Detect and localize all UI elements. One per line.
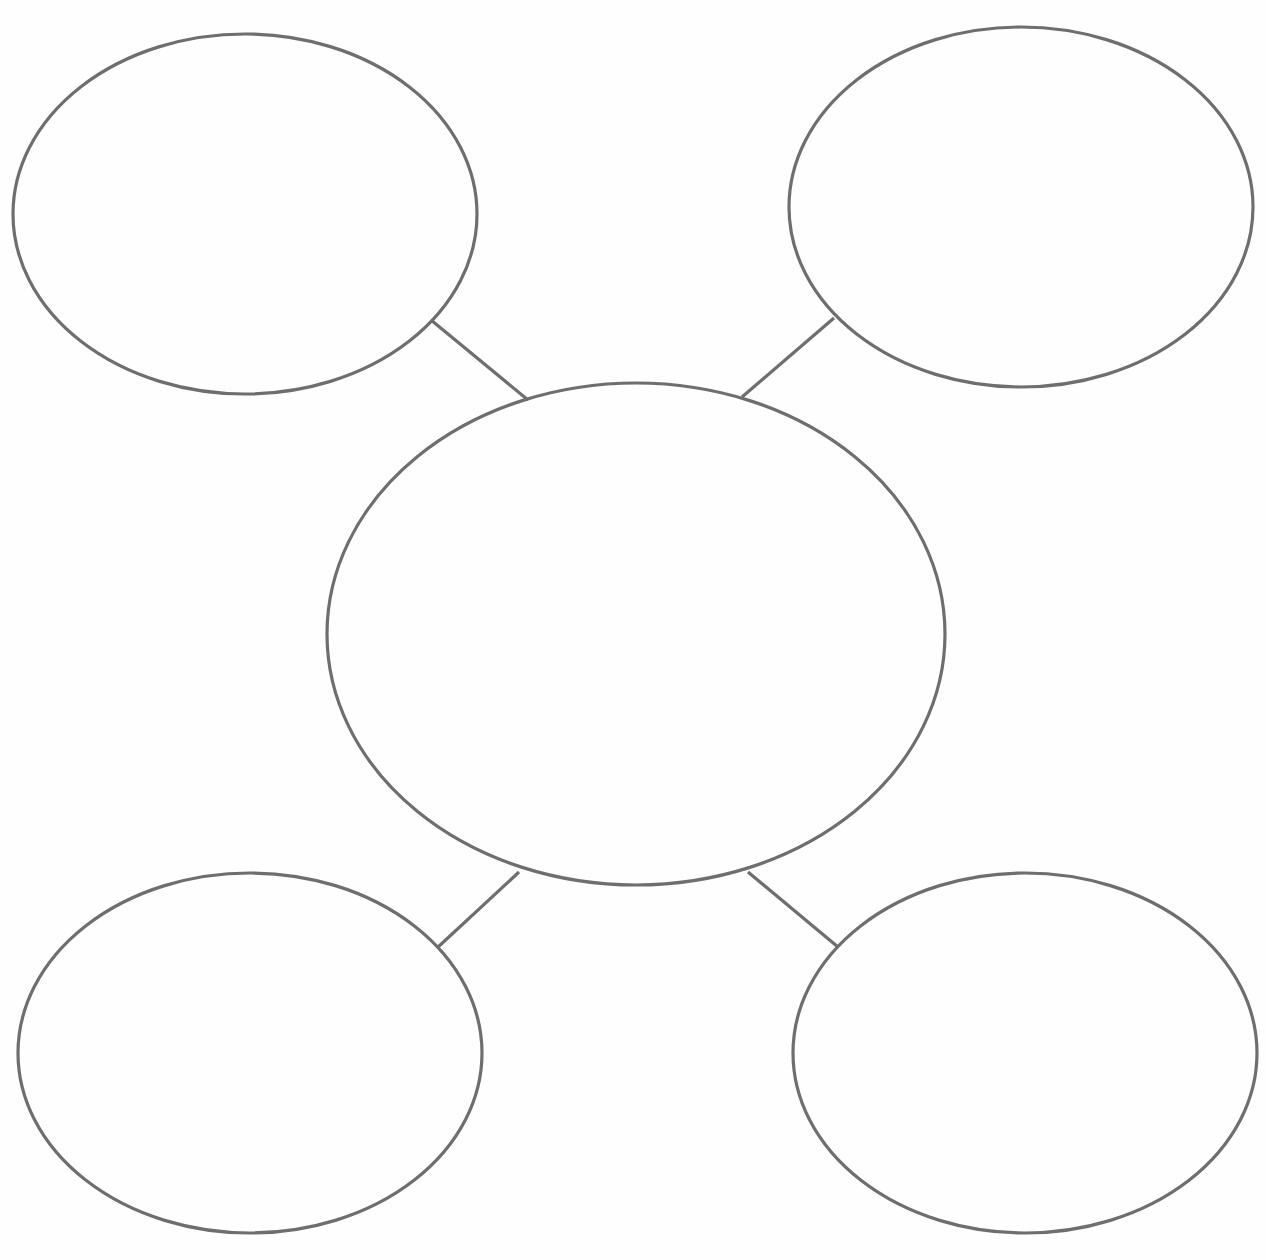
satellite-bottom-right[interactable]	[793, 873, 1257, 1233]
satellite-bottom-left[interactable]	[18, 873, 482, 1233]
center-node-group	[327, 383, 945, 885]
satellite-top-left[interactable]	[13, 34, 477, 394]
center-node[interactable]	[327, 383, 945, 885]
concept-web-canvas	[0, 0, 1266, 1260]
connector-center-bottom-right[interactable]	[748, 872, 838, 947]
connector-center-bottom-left[interactable]	[437, 872, 519, 948]
concept-web-diagram	[0, 0, 1266, 1260]
connector-center-top-left[interactable]	[431, 320, 528, 400]
satellite-top-right[interactable]	[789, 27, 1253, 387]
connector-center-top-right[interactable]	[742, 318, 834, 397]
